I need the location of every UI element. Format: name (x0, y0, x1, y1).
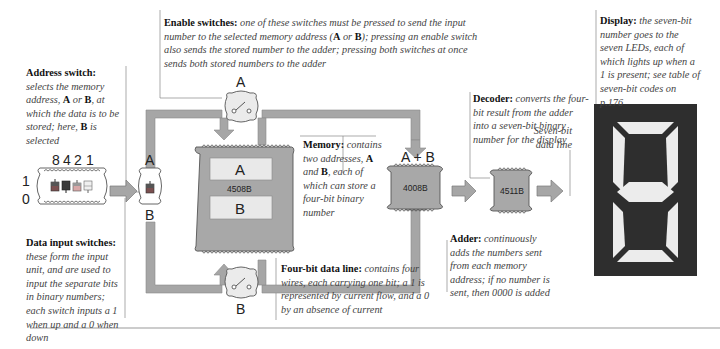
memory-slot-b-label: B (235, 200, 245, 217)
enable-switch-b (225, 267, 258, 298)
caption-display: Display: the seven-bit number goes to th… (600, 14, 700, 109)
adder-chip-id: 4008B (403, 183, 428, 193)
memory-slot-a-label: A (235, 161, 245, 178)
data-input-switch-unit (37, 168, 107, 204)
bit-label-4: 4 (63, 152, 71, 168)
adder-label: A + B (401, 149, 435, 165)
caption-data-input-switches: Data input switches: these form the inpu… (26, 236, 126, 345)
seven-segment-display (594, 104, 697, 276)
enable-label-a: A (236, 74, 246, 90)
caption-adder: Adder: continuously adds the numbers sen… (450, 232, 555, 300)
memory-chip-id: 4508B (227, 184, 252, 194)
address-label-a: A (145, 152, 155, 168)
bit-label-2: 2 (74, 152, 82, 168)
caption-enable-switches: Enable switches: one of these switches m… (164, 16, 484, 70)
enable-label-b: B (236, 301, 245, 317)
caption-four-bit-data-line: Four-bit data line: contains four wires,… (281, 262, 441, 316)
segment-g (617, 182, 674, 202)
caption-address-switch: Address switch: selects the memory addre… (26, 66, 124, 148)
level-label-1: 1 (22, 173, 30, 189)
bit-label-1: 1 (86, 152, 94, 168)
enable-switch-a (225, 91, 258, 122)
address-switch-unit (139, 168, 162, 204)
level-label-0: 0 (22, 191, 30, 207)
bit-label-8: 8 (52, 152, 60, 168)
decoder-chip-id: 4511B (500, 186, 524, 196)
address-label-b: B (145, 207, 154, 223)
caption-seven-bit-line: Seven-bit data line (528, 124, 572, 151)
caption-memory: Memory: contains two addresses, A and B,… (303, 138, 383, 220)
